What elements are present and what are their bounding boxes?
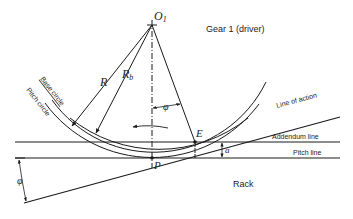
pitch-point-label: P <box>153 159 161 171</box>
pitch-radius-label: R <box>99 75 108 89</box>
rack-label: Rack <box>233 179 254 189</box>
phi-left-label: φ <box>17 175 23 186</box>
pitch-radius-line <box>72 25 152 126</box>
gear-title: Gear 1 (driver) <box>206 24 265 34</box>
rotation-arrow <box>133 126 168 128</box>
line-of-action-label: Line of action <box>275 91 317 109</box>
pitch-circle-label: Pitch circle <box>25 86 51 117</box>
addendum-line-label: Addendum line <box>272 133 319 140</box>
gear-rack-diagram: O1 Gear 1 (driver) R Rb Base circle Pitc… <box>0 0 353 219</box>
contact-point-dot <box>193 140 197 144</box>
contact-point-label: E <box>195 127 203 139</box>
addendum-label: a <box>225 145 230 155</box>
pitch-line-label: Pitch line <box>293 149 322 156</box>
phi-top-label: φ <box>163 101 169 112</box>
o1-to-e-line <box>152 25 195 142</box>
center-label: O1 <box>154 9 167 24</box>
base-radius-label: Rb <box>121 67 133 82</box>
gear-addendum-circle <box>70 118 248 149</box>
